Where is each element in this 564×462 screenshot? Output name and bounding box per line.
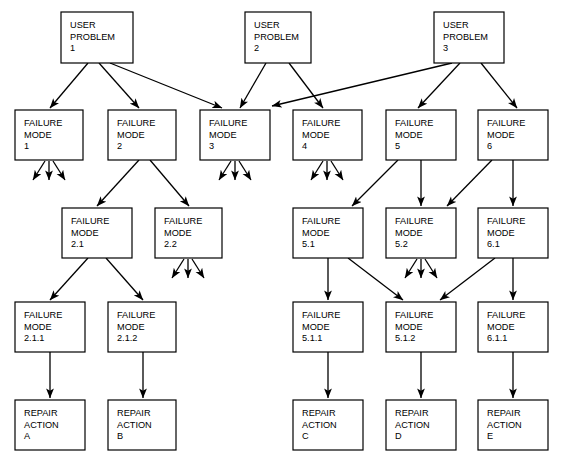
dangling-arrow-fm1-0	[33, 161, 45, 180]
node-label-up3-line3: 3	[443, 43, 448, 53]
node-label-fm21-line1: FAILURE	[71, 216, 109, 226]
node-label-fm2-line3: 2	[117, 141, 122, 151]
node-fm51[interactable]: FAILUREMODE5.1	[293, 208, 363, 258]
node-fm61[interactable]: FAILUREMODE6.1	[478, 208, 548, 258]
node-label-fm211-line2: MODE	[24, 322, 52, 332]
node-raC[interactable]: REPAIRACTIONC	[293, 400, 363, 450]
node-label-fm4-line3: 4	[302, 141, 307, 151]
node-label-fm5-line2: MODE	[395, 130, 423, 140]
edge-fm5-to-fm51	[352, 160, 398, 206]
node-label-fm6-line1: FAILURE	[487, 118, 525, 128]
node-label-fm1-line3: 1	[24, 141, 29, 151]
node-fm212[interactable]: FAILUREMODE2.1.2	[108, 302, 176, 352]
dangling-arrow-fm4-2	[331, 161, 343, 180]
node-fm512[interactable]: FAILUREMODE5.1.2	[386, 302, 456, 352]
node-label-fm52-line2: MODE	[395, 228, 423, 238]
node-label-up1-line3: 1	[70, 43, 75, 53]
node-label-fm212-line1: FAILURE	[117, 310, 155, 320]
node-label-fm52-line1: FAILURE	[395, 216, 433, 226]
node-fm4[interactable]: FAILUREMODE4	[293, 110, 362, 160]
node-raA[interactable]: REPAIRACTIONA	[15, 400, 85, 450]
edge-fm2-to-fm21	[97, 160, 139, 206]
dangling-arrow-fm1-2	[53, 161, 65, 180]
node-label-raD-line3: D	[395, 431, 402, 441]
node-label-fm6-line3: 6	[487, 141, 492, 151]
node-label-raB-line2: ACTION	[117, 420, 152, 430]
node-label-fm611-line2: MODE	[487, 322, 515, 332]
node-label-fm511-line1: FAILURE	[302, 310, 340, 320]
edge-fm51-to-fm512	[348, 258, 403, 300]
node-up1[interactable]: USERPROBLEM1	[61, 12, 133, 63]
node-label-fm61-line3: 6.1	[487, 239, 500, 249]
dangling-arrow-fm52-2	[425, 259, 437, 278]
dangling-arrow-fm3-2	[239, 161, 251, 180]
node-label-fm211-line1: FAILURE	[24, 310, 62, 320]
node-label-fm212-line3: 2.1.2	[117, 333, 137, 343]
node-label-fm6-line2: MODE	[487, 130, 515, 140]
node-fm511[interactable]: FAILUREMODE5.1.1	[293, 302, 363, 352]
node-fm211[interactable]: FAILUREMODE2.1.1	[15, 302, 85, 352]
edge-fm21-to-fm212	[106, 258, 143, 300]
node-label-fm512-line1: FAILURE	[395, 310, 433, 320]
node-label-fm511-line3: 5.1.1	[302, 333, 322, 343]
node-up3[interactable]: USERPROBLEM3	[434, 12, 504, 63]
edge-fm2-to-fm22	[150, 160, 189, 206]
node-fm6[interactable]: FAILUREMODE6	[478, 110, 548, 160]
node-label-raD-line1: REPAIR	[395, 408, 429, 418]
node-label-raA-line2: ACTION	[24, 420, 59, 430]
node-label-fm22-line1: FAILURE	[164, 216, 202, 226]
node-label-fm3-line3: 3	[209, 141, 214, 151]
node-fm3[interactable]: FAILUREMODE3	[200, 110, 270, 160]
edge-up1-to-fm1	[50, 63, 88, 108]
node-label-fm1-line2: MODE	[24, 130, 52, 140]
node-label-up3-line1: USER	[443, 20, 469, 30]
node-fm52[interactable]: FAILUREMODE5.2	[386, 208, 456, 258]
node-label-raA-line3: A	[24, 431, 31, 441]
node-raD[interactable]: REPAIRACTIOND	[386, 400, 456, 450]
node-label-fm211-line3: 2.1.1	[24, 333, 44, 343]
node-label-raC-line1: REPAIR	[302, 408, 336, 418]
edge-up3-to-fm6	[481, 63, 517, 108]
node-label-raB-line3: B	[117, 431, 123, 441]
node-fm611[interactable]: FAILUREMODE6.1.1	[478, 302, 548, 352]
node-layer: USERPROBLEM1USERPROBLEM2USERPROBLEM3FAIL…	[15, 12, 548, 450]
node-label-raC-line2: ACTION	[302, 420, 337, 430]
dangling-arrow-fm52-0	[405, 259, 417, 278]
node-raB[interactable]: REPAIRACTIONB	[108, 400, 176, 450]
node-label-fm511-line2: MODE	[302, 322, 330, 332]
node-label-raE-line2: ACTION	[487, 420, 522, 430]
edge-up1-to-fm2	[99, 63, 139, 108]
edge-fm61-to-fm512	[440, 258, 495, 300]
node-label-fm611-line1: FAILURE	[487, 310, 525, 320]
node-label-fm52-line3: 5.2	[395, 239, 408, 249]
node-label-fm212-line2: MODE	[117, 322, 145, 332]
node-label-raA-line1: REPAIR	[24, 408, 58, 418]
dangling-arrow-fm3-0	[219, 161, 231, 180]
node-label-raE-line3: E	[487, 431, 493, 441]
edge-fm21-to-fm211	[50, 258, 88, 300]
node-fm5[interactable]: FAILUREMODE5	[386, 110, 456, 160]
node-label-fm5-line1: FAILURE	[395, 118, 433, 128]
node-label-up2-line1: USER	[254, 20, 280, 30]
node-label-fm22-line3: 2.2	[164, 239, 177, 249]
dangling-arrow-fm22-2	[192, 259, 204, 278]
node-label-up2-line2: PROBLEM	[254, 32, 299, 42]
node-label-fm4-line1: FAILURE	[302, 118, 340, 128]
node-label-raC-line3: C	[302, 431, 309, 441]
node-fm22[interactable]: FAILUREMODE2.2	[155, 208, 222, 258]
node-label-raE-line1: REPAIR	[487, 408, 521, 418]
node-fm21[interactable]: FAILUREMODE2.1	[62, 208, 132, 258]
node-fm1[interactable]: FAILUREMODE1	[15, 110, 83, 160]
node-label-fm51-line3: 5.1	[302, 239, 315, 249]
node-label-fm51-line1: FAILURE	[302, 216, 340, 226]
node-fm2[interactable]: FAILUREMODE2	[108, 110, 176, 160]
node-label-up1-line1: USER	[70, 20, 96, 30]
dangling-arrow-fm4-0	[311, 161, 323, 180]
dangling-arrow-fm22-0	[172, 259, 184, 278]
diagram-canvas: USERPROBLEM1USERPROBLEM2USERPROBLEM3FAIL…	[0, 0, 564, 462]
node-label-fm2-line2: MODE	[117, 130, 145, 140]
node-raE[interactable]: REPAIRACTIONE	[478, 400, 548, 450]
node-up2[interactable]: USERPROBLEM2	[245, 12, 311, 63]
node-label-up1-line2: PROBLEM	[70, 32, 115, 42]
node-label-fm2-line1: FAILURE	[117, 118, 155, 128]
